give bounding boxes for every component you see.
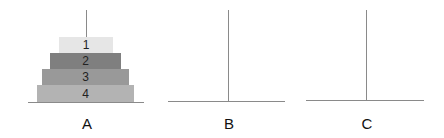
peg-c-pole xyxy=(366,10,367,100)
peg-b-pole xyxy=(228,10,229,101)
disk-4-label: 4 xyxy=(82,88,89,100)
peg-a-base xyxy=(28,102,144,103)
peg-a-label: A xyxy=(82,116,92,131)
disk-1[interactable]: 1 xyxy=(59,37,113,53)
disk-2-label: 2 xyxy=(82,55,89,67)
disk-3-label: 3 xyxy=(82,71,89,83)
peg-b-base xyxy=(168,101,285,102)
disk-2[interactable]: 2 xyxy=(50,53,121,69)
disk-3[interactable]: 3 xyxy=(42,69,129,85)
disk-1-label: 1 xyxy=(83,39,90,51)
disk-4[interactable]: 4 xyxy=(37,85,134,102)
peg-b-label: B xyxy=(224,116,234,131)
peg-c-label: C xyxy=(362,116,373,131)
peg-c-base xyxy=(306,100,424,101)
